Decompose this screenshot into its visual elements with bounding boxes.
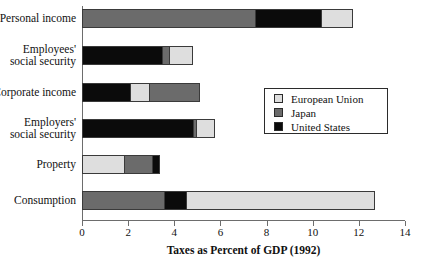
bar-segment-european-union <box>196 119 214 138</box>
bar-segment-european-union <box>321 9 353 28</box>
x-tick-label-6: 6 <box>218 226 224 238</box>
bar-property <box>82 155 160 174</box>
bar-segment-european-union <box>169 46 193 65</box>
x-tick-label-8: 8 <box>264 226 270 238</box>
bar-consumption <box>82 191 375 210</box>
chart-container: Personal income Employees' social securi… <box>0 0 424 268</box>
legend-label-united-states: United States <box>291 121 350 133</box>
bar-segment-european-union <box>82 155 124 174</box>
bar-segment-united-states <box>152 155 160 174</box>
x-axis-title: Taxes as Percent of GDP (1992) <box>82 244 405 256</box>
x-tick-label-10: 10 <box>307 226 318 238</box>
bar-segment-japan <box>124 155 153 174</box>
category-label-personal-income: Personal income <box>0 12 76 24</box>
x-tick-label-0: 0 <box>79 226 85 238</box>
bar-employees-social-security <box>82 46 193 65</box>
bar-segment-united-states <box>82 46 162 65</box>
x-tick-label-2: 2 <box>125 226 131 238</box>
bar-employers-social-security <box>82 119 215 138</box>
category-label-employees-social-security: Employees' social security <box>0 43 76 67</box>
legend-item-european-union: European Union <box>274 92 387 105</box>
y-axis-line <box>82 6 83 221</box>
legend-item-japan: Japan <box>274 106 387 119</box>
bar-segment-united-states <box>164 191 186 210</box>
bar-corporate-income <box>82 83 200 102</box>
bar-segment-united-states <box>82 119 193 138</box>
bar-segment-european-union <box>186 191 375 210</box>
bar-personal-income <box>82 9 353 28</box>
legend-box: European Union Japan United States <box>264 88 388 134</box>
legend-label-european-union: European Union <box>291 93 363 105</box>
category-label-property: Property <box>0 158 76 170</box>
legend-swatch-united-states <box>274 122 283 131</box>
bar-segment-japan <box>82 9 255 28</box>
legend-label-japan: Japan <box>291 107 316 119</box>
bar-segment-united-states <box>82 83 130 102</box>
bar-segment-japan <box>149 83 200 102</box>
bar-segment-japan <box>162 46 169 65</box>
category-label-employers-social-security: Employers' social security <box>0 116 76 140</box>
legend-item-united-states: United States <box>274 120 387 133</box>
bar-segment-japan <box>82 191 164 210</box>
category-label-corporate-income: Corporate income <box>0 86 76 98</box>
bar-segment-united-states <box>255 9 321 28</box>
category-label-consumption: Consumption <box>0 194 76 206</box>
legend-swatch-european-union <box>274 94 283 103</box>
legend-swatch-japan <box>274 108 283 117</box>
x-tick-label-14: 14 <box>400 226 411 238</box>
bar-segment-european-union <box>130 83 148 102</box>
x-tick-label-12: 12 <box>353 226 364 238</box>
footer-scrap-text <box>4 261 204 268</box>
x-axis-line <box>82 220 405 221</box>
x-tick-label-4: 4 <box>172 226 178 238</box>
